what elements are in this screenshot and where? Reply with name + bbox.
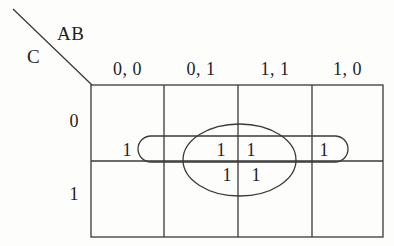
cell-r0c1: 1 <box>210 141 232 159</box>
karnaugh-map-figure: AB C 0, 0 0, 1 1, 1 1, 0 0 1 1 1 1 1 1 1 <box>0 0 394 246</box>
kmap-grid <box>0 0 394 246</box>
cell-r0c2: 1 <box>240 141 262 159</box>
cell-r1c1: 1 <box>216 166 238 184</box>
cell-r1c2: 1 <box>245 166 267 184</box>
cell-r0c0: 1 <box>116 141 138 159</box>
cell-r0c3: 1 <box>313 141 335 159</box>
